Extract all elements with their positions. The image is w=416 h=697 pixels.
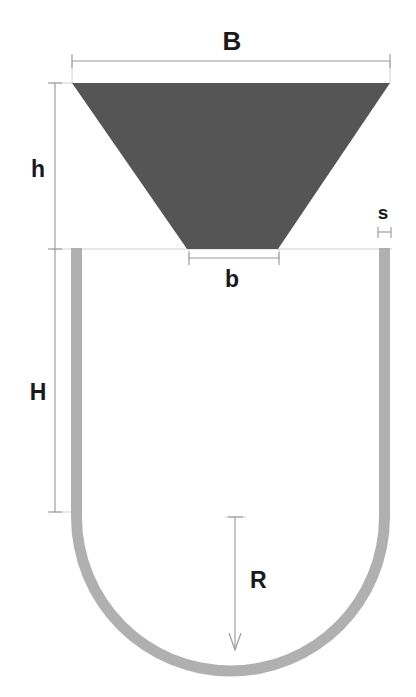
diagram-canvas: B h b s H [0, 0, 416, 697]
dimension-b: b [189, 252, 279, 292]
trough-wall-path [71, 248, 390, 677]
dimension-h: h [31, 83, 62, 249]
u-trough-shape [71, 248, 390, 677]
dimension-R: R [228, 517, 267, 650]
dimension-label-R: R [250, 567, 267, 593]
dimension-label-H: H [30, 379, 47, 405]
hopper-shape [72, 83, 390, 249]
dimension-label-s: s [378, 202, 389, 223]
dimension-B: B [72, 26, 390, 68]
dimension-H: H [30, 249, 62, 512]
cross-section-drawing: B h b s H [0, 0, 416, 697]
hopper-trapezoid-path [72, 83, 390, 249]
dimension-label-h: h [31, 156, 45, 182]
dimension-label-b: b [225, 266, 239, 292]
dimension-label-B: B [223, 26, 242, 56]
dimension-s: s [378, 202, 391, 238]
